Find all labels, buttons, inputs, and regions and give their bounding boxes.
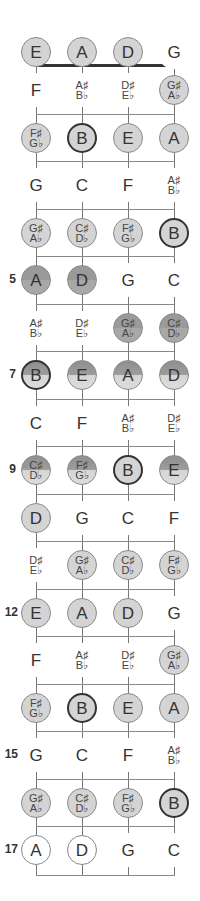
note-fret1-string4: G♯A♭ xyxy=(159,75,189,105)
fret-line-14 xyxy=(36,731,175,732)
note-flat-label: E♭ xyxy=(122,90,134,100)
fret-number-5: 5 xyxy=(0,272,16,286)
note-fret5-string1: A xyxy=(21,265,51,295)
note-flat-label: A♭ xyxy=(168,90,180,100)
note-fret2-string2: B xyxy=(67,123,97,153)
note-fret13-string3: D♯E♭ xyxy=(111,643,145,677)
note-flat-label: G♭ xyxy=(121,233,135,243)
note-label: C xyxy=(76,177,88,194)
note-label: G xyxy=(75,510,88,527)
note-flat-label: G♭ xyxy=(121,803,135,813)
fret-line-11 xyxy=(36,589,175,590)
note-fret14-string3: E xyxy=(113,693,143,723)
note-label: E xyxy=(122,700,133,717)
fret-line-12 xyxy=(36,636,175,637)
fret-line-15 xyxy=(36,779,175,780)
note-fret8-string2: F xyxy=(65,406,99,440)
note-label: G xyxy=(29,747,42,764)
note-fret3-string2: C xyxy=(65,168,99,202)
note-flat-label: B♭ xyxy=(76,90,88,100)
note-fret7-string2: E xyxy=(67,360,97,390)
note-label: A xyxy=(30,272,41,289)
note-label: B xyxy=(30,367,41,384)
note-label: F xyxy=(77,415,87,432)
note-fret9-string4: E xyxy=(159,455,189,485)
note-label: F xyxy=(169,510,179,527)
note-fret16-string3: F♯G♭ xyxy=(113,788,143,818)
note-fret16-string4: B xyxy=(159,788,189,818)
fret-line-13 xyxy=(36,684,175,685)
note-fret0-string2: A xyxy=(67,37,97,67)
fret-line-8 xyxy=(36,446,175,447)
note-fret12-string1: E xyxy=(21,598,51,628)
note-fret9-string2: F♯G♭ xyxy=(67,455,97,485)
note-label: D xyxy=(168,367,180,384)
note-label: A xyxy=(76,44,87,61)
note-fret14-string2: B xyxy=(67,693,97,723)
note-fret1-string3: D♯E♭ xyxy=(111,73,145,107)
note-label: D xyxy=(76,842,88,859)
note-label: C xyxy=(168,842,180,859)
note-flat-label: B♭ xyxy=(76,660,88,670)
note-fret15-string2: C xyxy=(65,738,99,772)
note-fret10-string4: F xyxy=(157,501,191,535)
note-label: A xyxy=(168,130,179,147)
note-flat-label: A♭ xyxy=(122,328,134,338)
note-label: G xyxy=(167,44,180,61)
note-flat-label: B♭ xyxy=(30,328,42,338)
fret-line-4 xyxy=(36,256,175,257)
note-label: G xyxy=(121,272,134,289)
note-label: E xyxy=(30,44,41,61)
fret-line-5 xyxy=(36,304,175,305)
note-label: C xyxy=(30,415,42,432)
note-fret1-string2: A♯B♭ xyxy=(65,73,99,107)
note-flat-label: D♭ xyxy=(76,803,89,813)
note-flat-label: G♭ xyxy=(29,138,43,148)
note-fret15-string4: A♯B♭ xyxy=(157,738,191,772)
note-fret7-string4: D xyxy=(159,360,189,390)
fret-line-2 xyxy=(36,161,175,162)
note-fret0-string3: D xyxy=(113,37,143,67)
note-fret1-string1: F xyxy=(19,73,53,107)
note-fret7-string3: A xyxy=(113,360,143,390)
note-fret13-string1: F xyxy=(19,643,53,677)
note-label: E xyxy=(76,367,87,384)
note-fret5-string2: D xyxy=(67,265,97,295)
note-label: G xyxy=(29,177,42,194)
note-fret11-string2: G♯A♭ xyxy=(67,550,97,580)
note-label: A xyxy=(168,700,179,717)
note-fret5-string4: C xyxy=(157,263,191,297)
note-fret7-string1: B xyxy=(21,360,51,390)
note-fret11-string4: F♯G♭ xyxy=(159,550,189,580)
note-flat-label: A♭ xyxy=(30,233,42,243)
note-fret4-string3: F♯G♭ xyxy=(113,218,143,248)
note-fret0-string4: G xyxy=(157,35,191,69)
note-fret10-string2: G xyxy=(65,501,99,535)
note-flat-label: A♭ xyxy=(168,660,180,670)
fretboard-diagram: EADGFA♯B♭D♯E♭G♯A♭F♯G♭BEAGCFA♯B♭G♯A♭C♯D♭F… xyxy=(0,0,200,901)
fret-line-7 xyxy=(36,399,175,400)
note-fret4-string4: B xyxy=(159,218,189,248)
note-fret17-string2: D xyxy=(67,835,97,865)
note-fret17-string1: A xyxy=(21,835,51,865)
note-flat-label: E♭ xyxy=(76,328,88,338)
note-fret6-string3: G♯A♭ xyxy=(113,313,143,343)
note-fret15-string3: F xyxy=(111,738,145,772)
fret-line-10 xyxy=(36,541,175,542)
fret-line-9 xyxy=(36,494,175,495)
note-fret6-string1: A♯B♭ xyxy=(19,311,53,345)
note-flat-label: B♭ xyxy=(122,423,134,433)
note-label: B xyxy=(76,130,87,147)
note-label: A xyxy=(30,842,41,859)
note-flat-label: G♭ xyxy=(167,565,181,575)
note-fret9-string1: C♯D♭ xyxy=(21,455,51,485)
fret-line-6 xyxy=(36,351,175,352)
note-fret2-string3: E xyxy=(113,123,143,153)
note-fret17-string3: G xyxy=(111,833,145,867)
note-label: D xyxy=(76,272,88,289)
note-label: C xyxy=(122,510,134,527)
note-label: D xyxy=(122,605,134,622)
note-fret5-string3: G xyxy=(111,263,145,297)
note-fret13-string4: G♯A♭ xyxy=(159,645,189,675)
note-label: F xyxy=(123,177,133,194)
